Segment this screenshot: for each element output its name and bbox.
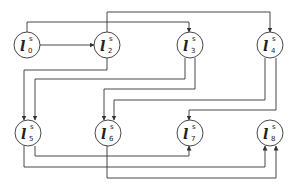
- node-l5: l s 5: [15, 120, 41, 146]
- graph-diagram: l s 0 l s 2 l s 3 l s 4 l s 5 l s 6 l s …: [0, 0, 299, 188]
- node-l2: l s 2: [94, 32, 120, 58]
- svg-text:l: l: [263, 126, 268, 142]
- svg-text:5: 5: [29, 135, 33, 143]
- node-l8: l s 8: [257, 120, 283, 146]
- svg-text:l: l: [101, 126, 106, 142]
- edge-l3-l6: [104, 58, 195, 120]
- edge-l2-l5: [24, 58, 107, 120]
- svg-text:s: s: [109, 35, 113, 43]
- svg-text:l: l: [183, 38, 188, 54]
- svg-text:s: s: [272, 35, 276, 43]
- node-l6: l s 6: [95, 120, 121, 146]
- svg-text:4: 4: [271, 47, 276, 55]
- svg-text:2: 2: [108, 47, 112, 55]
- svg-text:3: 3: [191, 47, 195, 55]
- svg-text:s: s: [192, 35, 196, 43]
- edge-l0-l3: [27, 22, 189, 32]
- svg-text:8: 8: [271, 135, 275, 143]
- svg-text:s: s: [29, 35, 33, 43]
- node-l0: l s 0: [14, 32, 40, 58]
- svg-text:0: 0: [28, 47, 32, 55]
- edge-l5-l7: [35, 146, 189, 156]
- svg-text:s: s: [272, 123, 276, 131]
- edge-l6-l8: [107, 146, 276, 178]
- node-l4: l s 4: [257, 32, 283, 58]
- svg-text:l: l: [100, 38, 105, 54]
- edge-l4-l7: [189, 58, 276, 120]
- svg-text:l: l: [21, 126, 26, 142]
- svg-text:l: l: [183, 126, 188, 142]
- edge-l5-l8: [24, 146, 265, 167]
- svg-text:l: l: [20, 38, 25, 54]
- node-l3: l s 3: [177, 32, 203, 58]
- svg-text:6: 6: [109, 135, 114, 143]
- svg-text:7: 7: [191, 135, 195, 143]
- svg-text:l: l: [263, 38, 268, 54]
- svg-text:s: s: [30, 123, 34, 131]
- svg-text:s: s: [192, 123, 196, 131]
- svg-text:s: s: [110, 123, 114, 131]
- node-l7: l s 7: [177, 120, 203, 146]
